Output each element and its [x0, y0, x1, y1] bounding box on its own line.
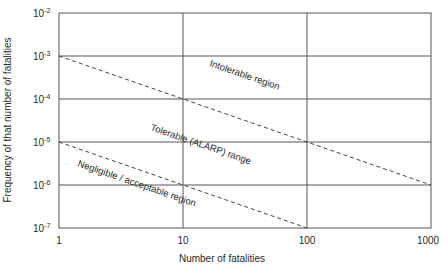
- x-axis-ticks: 1 10 100 1000: [56, 235, 439, 246]
- y-tick-label: 10-4: [33, 93, 50, 105]
- x-tick-label: 1000: [417, 235, 440, 246]
- x-tick-label: 1: [56, 235, 62, 246]
- y-tick-label: 10-6: [33, 179, 50, 191]
- x-tick-label: 10: [177, 235, 189, 246]
- y-tick-label: 10-7: [33, 222, 50, 234]
- y-tick-label: 10-5: [33, 136, 50, 148]
- intolerable-region-label: Intolerable region: [208, 57, 281, 91]
- y-axis-label: Frequency of that number of fatalities: [2, 37, 13, 202]
- y-tick-label: 10-2: [33, 7, 50, 19]
- y-axis-ticks: 10-2 10-3 10-4 10-5 10-6 10-7: [33, 7, 50, 234]
- fn-curve-chart: 10-2 10-3 10-4 10-5 10-6 10-7 1 10 100 1…: [0, 0, 446, 269]
- x-tick-label: 100: [299, 235, 316, 246]
- x-axis-label: Number of fatalities: [179, 253, 265, 264]
- y-tick-label: 10-3: [33, 50, 50, 62]
- negligible-region-label: Negligible / acceptable region: [76, 157, 197, 208]
- tolerable-alarp-label: Tolerable (ALARP) range: [149, 121, 252, 166]
